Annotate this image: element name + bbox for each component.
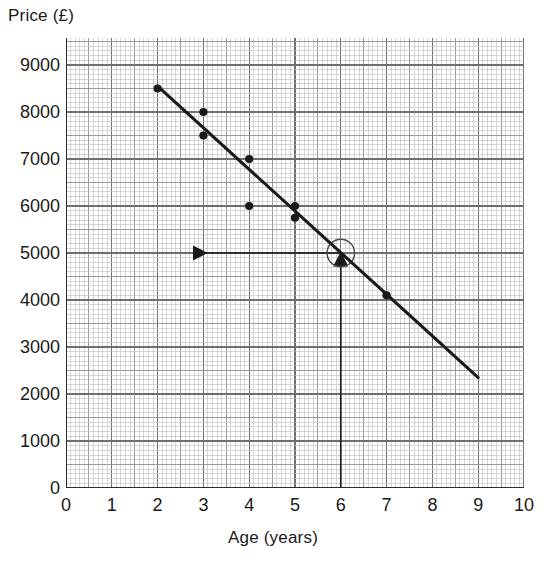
x-tick-label: 6 bbox=[321, 495, 361, 515]
x-tick-label: 1 bbox=[92, 495, 132, 515]
x-tick-label: 5 bbox=[275, 495, 315, 515]
x-tick-label: 2 bbox=[138, 495, 178, 515]
x-tick-labels: 012345678910 bbox=[0, 0, 546, 562]
scatter-chart: Price (£) 010002000300040005000600070008… bbox=[0, 0, 546, 562]
x-tick-label: 7 bbox=[367, 495, 407, 515]
x-tick-label: 10 bbox=[504, 495, 544, 515]
x-tick-label: 3 bbox=[183, 495, 223, 515]
x-tick-label: 9 bbox=[458, 495, 498, 515]
x-tick-label: 4 bbox=[229, 495, 269, 515]
x-axis-title: Age (years) bbox=[0, 528, 546, 548]
x-tick-label: 8 bbox=[412, 495, 452, 515]
x-tick-label: 0 bbox=[46, 495, 86, 515]
